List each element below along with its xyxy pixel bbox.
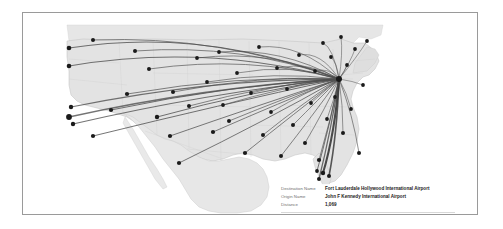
route-detail-tooltip: Destination Name Fort Lauderdale Hollywo…	[278, 184, 458, 214]
origin-name-value: John F Kennedy International Airport	[325, 194, 406, 201]
destination-name-value: Fort Lauderdale Hollywood International …	[325, 186, 429, 193]
tooltip-row-destination: Destination Name Fort Lauderdale Hollywo…	[281, 186, 455, 193]
origin-name-label: Origin Name	[281, 194, 325, 201]
distance-value: 1,069	[325, 202, 337, 209]
visualization-card: Destination Name Fort Lauderdale Hollywo…	[22, 12, 478, 215]
tooltip-row-distance: Distance 1,069	[281, 202, 455, 209]
distance-label: Distance	[281, 202, 325, 209]
map-viewport[interactable]: Destination Name Fort Lauderdale Hollywo…	[23, 13, 477, 214]
screenshot-root: Destination Name Fort Lauderdale Hollywo…	[0, 0, 503, 229]
tooltip-row-origin: Origin Name John F Kennedy International…	[281, 194, 455, 201]
destination-name-label: Destination Name	[281, 186, 325, 193]
tooltip-divider	[281, 212, 455, 213]
hub-node	[336, 76, 342, 82]
